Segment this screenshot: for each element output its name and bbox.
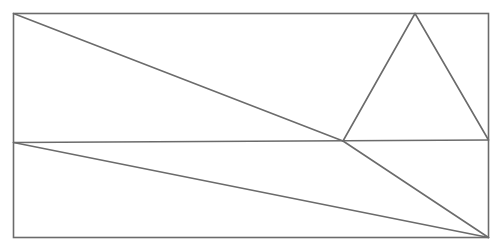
triangle-left-side bbox=[343, 14, 415, 142]
triangle-right-side bbox=[415, 14, 489, 141]
diagonal-top-left-to-center bbox=[14, 14, 344, 142]
geometric-diagram bbox=[0, 0, 502, 250]
horizontal-divider bbox=[14, 140, 489, 143]
outer-rectangle bbox=[14, 14, 489, 238]
